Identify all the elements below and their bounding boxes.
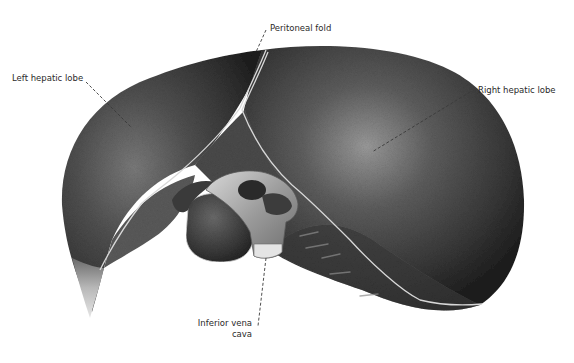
hepatic-vein-opening xyxy=(238,180,266,200)
label-peritoneal-fold: Peritoneal fold xyxy=(270,23,331,34)
label-ivc-line2: cava xyxy=(186,329,252,340)
liver-illustration xyxy=(0,0,574,363)
label-left-hepatic-lobe: Left hepatic lobe xyxy=(12,73,83,84)
liver-diagram: Left hepatic lobe Peritoneal fold Right … xyxy=(0,0,574,363)
label-inferior-vena-cava: Inferior vena cava xyxy=(186,318,252,340)
ivc-cut-end xyxy=(254,244,282,258)
leader-ivc xyxy=(258,258,266,326)
label-ivc-line1: Inferior vena xyxy=(186,318,252,329)
label-right-hepatic-lobe: Right hepatic lobe xyxy=(478,85,556,96)
leader-peritoneal-fold xyxy=(256,30,266,52)
